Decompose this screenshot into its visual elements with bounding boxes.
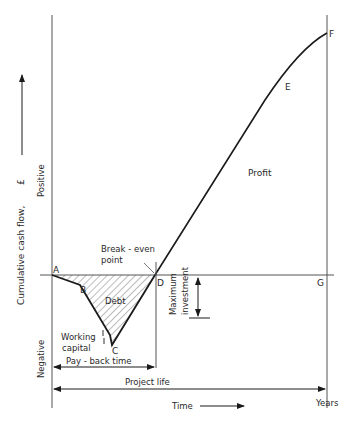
x-axis-unit-label: Years [315, 398, 339, 408]
point-c-label: C [112, 346, 118, 356]
negative-label: Negative [36, 340, 46, 378]
cash-flow-diagram: A B C D E F G Break - even point Debt Pr… [0, 0, 352, 428]
point-b-label: B [80, 285, 86, 295]
y-axis-label: Cumulative cash flow, [16, 206, 26, 305]
profit-label: Profit [248, 168, 272, 178]
break-even-label-2: point [101, 255, 123, 265]
positive-label: Positive [36, 164, 46, 197]
max-investment-label: Maximum [168, 273, 178, 315]
point-d-label: D [157, 278, 164, 288]
working-capital-label-2: capital [62, 343, 91, 353]
x-axis-label: Time [171, 401, 193, 411]
break-even-pointer [144, 263, 154, 273]
payback-time-label: Pay - back time [66, 356, 132, 366]
point-f-label: F [329, 29, 334, 39]
y-axis-unit: £ [16, 179, 26, 185]
project-life-label: Project life [125, 377, 170, 387]
debt-label: Debt [105, 296, 126, 306]
break-even-label: Break - even [101, 244, 155, 254]
max-investment-label-2: investment [180, 266, 190, 315]
point-e-label: E [285, 82, 291, 92]
cash-flow-curve-positive [155, 33, 327, 275]
point-a-label: A [53, 265, 60, 275]
point-g-label: G [317, 278, 324, 288]
working-capital-label: Working [61, 332, 96, 342]
